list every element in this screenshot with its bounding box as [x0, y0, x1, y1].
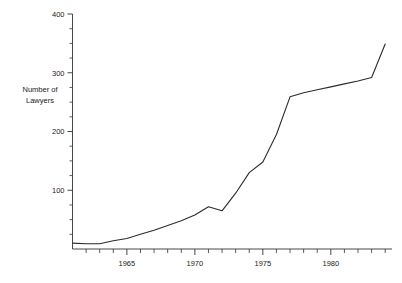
- x-axis-ticks: [86, 249, 385, 255]
- y-tick-label: 200: [52, 127, 65, 136]
- y-tick-label: 100: [52, 186, 65, 195]
- x-tick-label: 1970: [187, 259, 204, 268]
- chart-container: 100200300400 1965197019751980 Number of …: [0, 0, 402, 283]
- x-tick-label: 1980: [322, 259, 339, 268]
- y-axis-title-line2: Lawyers: [26, 96, 54, 105]
- x-tick-label: 1965: [119, 259, 136, 268]
- line-chart: 100200300400 1965197019751980 Number of …: [0, 0, 402, 283]
- x-tick-label: 1975: [254, 259, 271, 268]
- y-axis-title: Number of Lawyers: [22, 85, 58, 105]
- y-tick-label: 400: [52, 10, 65, 19]
- data-line-number-of-lawyers: [73, 44, 386, 244]
- y-axis-ticks: [68, 14, 73, 234]
- axes: [73, 14, 393, 249]
- x-axis-tick-labels: 1965197019751980: [119, 259, 340, 268]
- data-series: [73, 44, 386, 244]
- y-axis-title-line1: Number of: [22, 85, 58, 94]
- y-tick-label: 300: [52, 69, 65, 78]
